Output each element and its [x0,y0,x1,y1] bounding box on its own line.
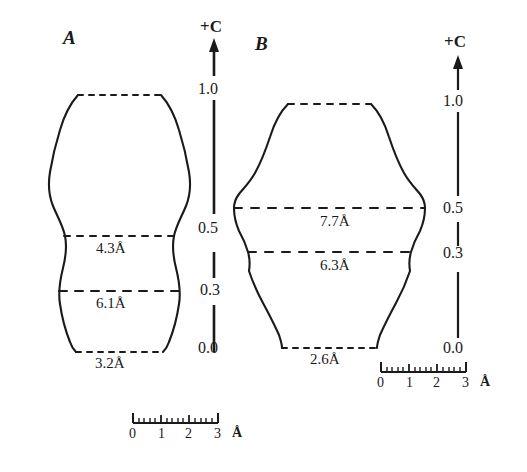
panel-b-label: B [255,34,268,53]
panel-b-scale-tick-0: 0 [377,376,384,390]
figure-drawing [0,0,527,472]
panel-a-axis-tick-00: 0.0 [198,340,218,356]
panel-b-axis-tick-00: 0.0 [443,340,463,356]
panel-a-contour-right [161,95,190,352]
panel-a-scale-tick-3: 3 [214,427,221,441]
panel-b-contour-right [371,104,425,348]
panel-b-axis-arrow-head [453,55,463,69]
panel-b-scale-tick-3: 3 [462,376,469,390]
figure-root: A +C 1.0 0.5 0.3 0.0 4.3Å 6.1Å 3.2Å 0 1 … [0,0,527,472]
panel-a-scale-tick-1: 1 [158,427,165,441]
panel-a-scale-unit: Å [232,426,242,440]
panel-a-label: A [63,28,76,47]
panel-b-contour-left [234,104,288,348]
panel-a-axis-tick-03: 0.3 [200,282,220,298]
panel-b-scalebar [381,362,466,372]
panel-a-scale-tick-0: 0 [129,427,136,441]
panel-b-dimension-05: 7.7Å [320,214,350,229]
panel-b-dimension-00: 2.6Å [310,352,340,367]
panel-a-dimension-00: 3.2Å [95,356,125,371]
panel-a-dimension-03: 6.1Å [96,296,126,311]
panel-b-scale-tick-2: 2 [433,376,440,390]
panel-b-axis-tick-1: 1.0 [443,93,463,109]
panel-a-axis-arrow-head [209,38,219,52]
panel-a-scale-tick-2: 2 [185,427,192,441]
panel-a-dimension-05: 4.3Å [96,241,126,256]
panel-b-scale-unit: Å [480,375,490,389]
panel-b-axis-top-label: +C [444,33,466,50]
panel-b-scale-tick-1: 1 [406,376,413,390]
panel-a-axis-tick-05: 0.5 [198,220,218,236]
panel-a-axis-top-label: +C [200,18,222,35]
panel-a-scalebar [133,413,218,423]
panel-b-axis-tick-05: 0.5 [443,200,463,216]
panel-a-axis-tick-1: 1.0 [198,81,218,97]
panel-a-contour-left [49,95,78,352]
panel-b-dimension-03: 6.3Å [320,258,350,273]
panel-b-axis-tick-03: 0.3 [443,245,463,261]
